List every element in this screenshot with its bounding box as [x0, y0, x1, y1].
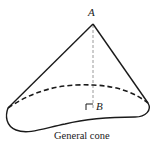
- left-slant-edge: [8, 24, 93, 108]
- cone-drawing: [0, 0, 162, 148]
- general-cone-figure: A B General cone: [0, 0, 162, 148]
- figure-caption: General cone: [54, 130, 110, 141]
- foot-label: B: [96, 100, 103, 112]
- hidden-base-edge: [8, 85, 148, 108]
- right-angle-marker: [86, 104, 93, 110]
- apex-label: A: [88, 6, 95, 18]
- right-slant-edge: [93, 24, 148, 103]
- visible-base-edge: [7, 103, 150, 132]
